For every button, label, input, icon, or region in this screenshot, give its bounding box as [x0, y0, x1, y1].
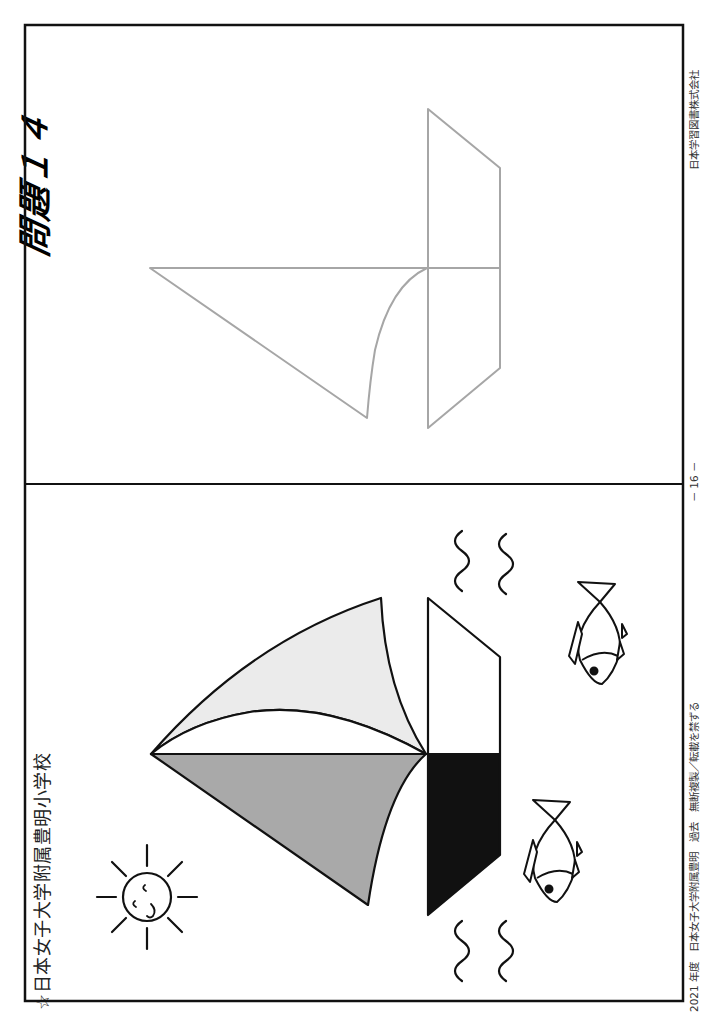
answer-outline-panel: [150, 109, 500, 428]
model-picture-panel: [97, 531, 627, 981]
fish-icon: [524, 800, 582, 902]
sun-icon: [97, 845, 197, 949]
wave: [499, 921, 513, 981]
fish-icon: [569, 582, 627, 684]
hull-black: [428, 754, 500, 915]
wave: [455, 531, 469, 591]
dark-sail: [151, 754, 426, 905]
hull-white: [428, 598, 500, 754]
wave: [455, 921, 469, 981]
worksheet: [0, 0, 702, 1016]
wave: [499, 534, 513, 594]
outline-lower-sail: [150, 268, 427, 418]
